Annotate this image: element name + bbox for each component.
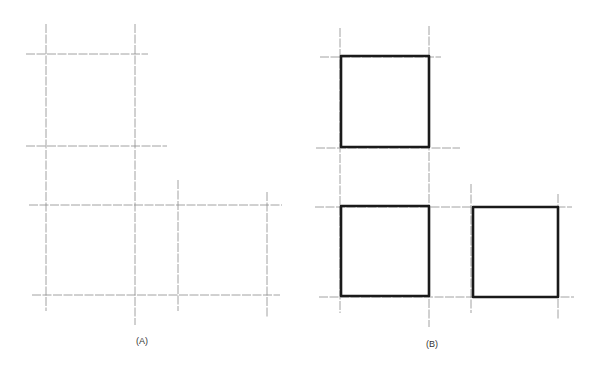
panel-b-label: (B) bbox=[426, 339, 438, 349]
panel-b-bold-square bbox=[341, 56, 429, 147]
grid-drawing bbox=[0, 0, 600, 368]
panel-b-bold-square bbox=[473, 207, 558, 297]
diagram-canvas: (A) (B) bbox=[0, 0, 600, 368]
panel-b-bold-square bbox=[341, 206, 429, 296]
panel-a-label: (A) bbox=[136, 336, 148, 346]
